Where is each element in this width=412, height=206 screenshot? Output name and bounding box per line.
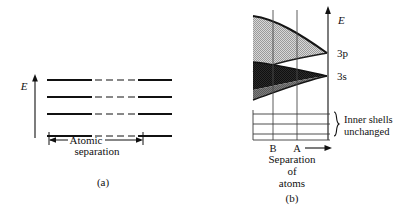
panel-a-separation-label-line2: separation (74, 145, 120, 157)
panel-a-caption: (a) (97, 176, 110, 189)
inner-shells-brace (334, 112, 339, 136)
panel-b-energy-axis (325, 6, 331, 140)
inner-shells-label-line2: unchanged (344, 126, 390, 137)
panel-a-axis-label: E (20, 80, 28, 92)
diagram-svg: E (0, 0, 412, 206)
band-3s (253, 62, 327, 100)
panel-b: E 3p 3s Inner shells unchanged B A Separ… (253, 6, 393, 205)
panel-b-caption: (b) (286, 192, 299, 205)
figure-container: E (0, 0, 412, 206)
panel-b-x-axis-arrow (305, 145, 332, 151)
panel-b-axis-label: E (337, 14, 345, 26)
panel-a-separation-label-line1: Atomic (70, 134, 103, 146)
inner-shell-lines (253, 114, 330, 134)
x-axis-label-line3: atoms (279, 177, 305, 189)
panel-a-energy-axis (32, 74, 38, 138)
band-label-3s: 3s (337, 70, 347, 82)
band-label-3p: 3p (337, 47, 349, 59)
x-axis-label-line1: Separation (268, 153, 316, 165)
panel-a: E (20, 74, 172, 189)
x-axis-label-line2: of (287, 165, 297, 177)
panel-a-energy-levels (47, 80, 172, 136)
inner-shells-label-line1: Inner shells (344, 114, 393, 125)
